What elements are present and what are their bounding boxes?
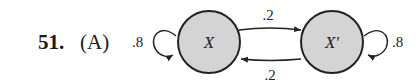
edge-label-xprime-xprime: .8 <box>392 34 403 50</box>
state-transition-diagram: .8 X .2 .2 X′ .8 <box>0 0 419 84</box>
edge-label-x-xprime: .2 <box>262 7 273 23</box>
node-xprime: X′ <box>301 11 363 73</box>
edge-xprime-to-x: .2 <box>241 59 301 83</box>
edge-x-to-xprime: .2 <box>239 7 301 30</box>
node-label-xprime: X′ <box>324 33 339 52</box>
node-x: X <box>178 11 240 73</box>
edge-label-xprime-x: .2 <box>264 67 275 83</box>
self-loop-xprime: .8 <box>364 31 403 57</box>
node-label-x: X <box>203 33 215 52</box>
edge-label-x-x: .8 <box>132 34 143 50</box>
self-loop-x: .8 <box>132 31 176 57</box>
